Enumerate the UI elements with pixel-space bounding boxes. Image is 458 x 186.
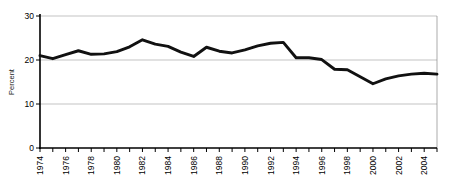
y-tick-label-30: 30 xyxy=(25,11,35,21)
x-tick-label-1978: 1978 xyxy=(86,156,96,175)
x-tick-label-1974: 1974 xyxy=(35,156,45,175)
x-tick-label-1982: 1982 xyxy=(137,156,147,175)
x-tick-label-1994: 1994 xyxy=(291,156,301,175)
x-tick-label-1986: 1986 xyxy=(189,156,199,175)
line-chart-figure: 30 20 10 0 Percent 197419761978198019821… xyxy=(0,0,458,186)
x-tick-label-2002: 2002 xyxy=(394,156,404,175)
y-tick-label-0: 0 xyxy=(29,143,34,153)
x-tick-label-2000: 2000 xyxy=(368,156,378,175)
x-tick-labels: 1974197619781980198219841986198819901992… xyxy=(35,156,429,175)
x-tick-label-1990: 1990 xyxy=(240,156,250,175)
x-tick-label-1976: 1976 xyxy=(61,156,71,175)
x-tick-label-1984: 1984 xyxy=(163,156,173,175)
y-tick-label-10: 10 xyxy=(25,99,35,109)
chart-canvas: 30 20 10 0 Percent 197419761978198019821… xyxy=(0,0,458,186)
y-tick-label-20: 20 xyxy=(25,55,35,65)
x-tick-label-1992: 1992 xyxy=(266,156,276,175)
x-tick-label-1980: 1980 xyxy=(112,156,122,175)
x-tick-label-1998: 1998 xyxy=(342,156,352,175)
x-tick-label-1988: 1988 xyxy=(214,156,224,175)
y-axis-title: Percent xyxy=(7,68,16,95)
x-tick-label-1996: 1996 xyxy=(317,156,327,175)
x-tick-label-2004: 2004 xyxy=(419,156,429,175)
